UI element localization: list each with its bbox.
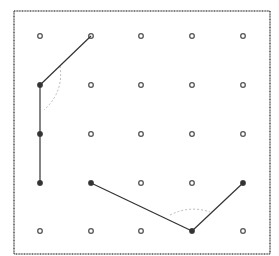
grid-dot (241, 83, 246, 88)
grid-dot (139, 181, 144, 186)
marked-point (38, 132, 43, 137)
grid-dot (190, 34, 195, 39)
grid-dot (89, 229, 94, 234)
grid-dot (139, 83, 144, 88)
marked-point (241, 181, 246, 186)
grid-dot (190, 181, 195, 186)
marked-point (89, 181, 94, 186)
segment-line (91, 183, 192, 231)
grid-dot (89, 132, 94, 137)
geoboard-diagram (0, 0, 279, 256)
marked-point (38, 83, 43, 88)
grid-dot (139, 132, 144, 137)
grid-dot (190, 132, 195, 137)
angle-arcs (44, 66, 210, 215)
grid-dot (139, 34, 144, 39)
segment-line (192, 183, 243, 231)
marked-point (190, 229, 195, 234)
segment-line (40, 36, 91, 85)
angle-arc-bottom (170, 209, 210, 215)
grid-dot (38, 34, 43, 39)
grid-dot (139, 229, 144, 234)
grid-dot (241, 229, 246, 234)
grid-dot (38, 229, 43, 234)
marked-point (38, 181, 43, 186)
grid-dot (190, 83, 195, 88)
grid-dot (241, 34, 246, 39)
grid-dot (241, 132, 246, 137)
grid-dot (89, 83, 94, 88)
grid-dots (38, 34, 246, 234)
